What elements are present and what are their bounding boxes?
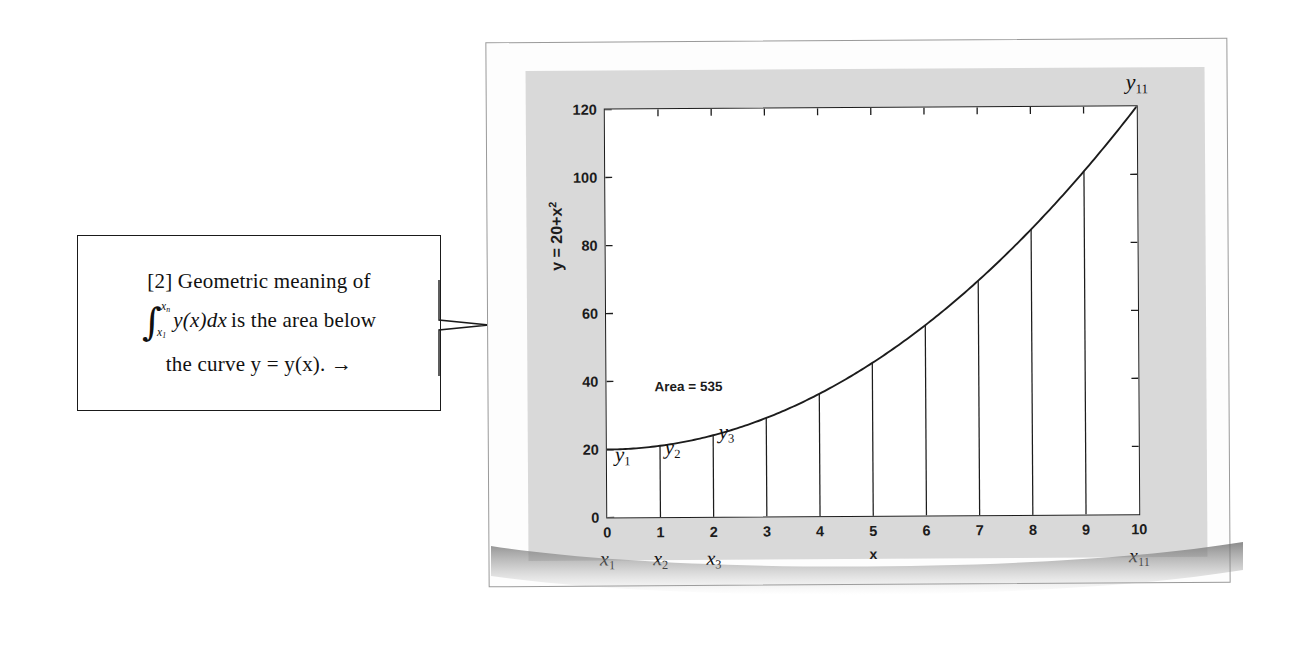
- ytick-label-60: 60: [582, 306, 598, 322]
- xtick-label-0: 0: [603, 525, 611, 541]
- x-axis-ticks-top: [658, 107, 1084, 117]
- xtick-label-8: 8: [1029, 522, 1037, 538]
- callout-line-1: [2] Geometric meaning of: [147, 266, 370, 298]
- callout-text-box: [2] Geometric meaning of ∫ xn x1 y(x)dx …: [77, 235, 441, 411]
- x2-label: x2: [653, 547, 668, 573]
- xtick-label-3: 3: [763, 524, 771, 540]
- strip-divider-4: [819, 394, 820, 516]
- xtick-label-4: 4: [816, 523, 824, 539]
- strip-divider-5: [872, 363, 873, 516]
- strip-divider-9: [1084, 171, 1086, 514]
- xtick-label-6: 6: [922, 523, 930, 539]
- strip-divider-8: [1031, 229, 1033, 515]
- xtick-label-9: 9: [1082, 522, 1090, 538]
- strip-divider-3: [766, 418, 767, 517]
- x3-label: x3: [706, 547, 721, 573]
- integrand-expression: y(x)dx: [173, 305, 227, 337]
- function-curve: [605, 106, 1139, 449]
- y-axis-title: y = 20+x2: [546, 202, 566, 271]
- figure-gray-panel: y = 20+x2 y11: [526, 67, 1208, 561]
- y11-label: y11: [1126, 69, 1149, 97]
- y3-label: y3: [719, 420, 735, 447]
- callout-line-2-tail: is the area below: [231, 305, 376, 337]
- xtick-label-1: 1: [656, 524, 664, 540]
- callout-line-3: the curve y = y(x). →: [166, 349, 352, 381]
- ytick-label-0: 0: [591, 510, 599, 526]
- y2-label: y2: [665, 435, 681, 462]
- x11-label: x11: [1129, 544, 1150, 570]
- callout-line-2: ∫ xn x1 y(x)dx is the area below: [142, 301, 376, 341]
- ytick-label-120: 120: [573, 102, 597, 118]
- strip-divider-6: [925, 325, 926, 515]
- x1-label: x1: [600, 547, 615, 573]
- figure-card: y = 20+x2 y11: [485, 38, 1230, 588]
- y-axis-ticks-right: [1130, 174, 1139, 446]
- integral-limits: xn x1: [158, 300, 167, 340]
- integral-upper-limit: xn: [161, 298, 170, 316]
- ytick-label-40: 40: [582, 374, 598, 390]
- integral-symbol: ∫ xn x1: [142, 301, 167, 341]
- xtick-label-7: 7: [976, 522, 984, 538]
- xtick-label-5: 5: [869, 523, 877, 539]
- xtick-label-2: 2: [710, 524, 718, 540]
- xtick-label-10: 10: [1131, 521, 1147, 537]
- ytick-label-20: 20: [583, 442, 599, 458]
- plot-area: 0 20 40 60 80 100 120 0 1 2 3 4 5 6 7 8 …: [604, 105, 1140, 518]
- integral-lower-limit: x1: [157, 324, 166, 342]
- y-axis-ticks: [605, 110, 614, 518]
- strip-dividers: [658, 171, 1086, 517]
- strip-divider-7: [978, 281, 979, 516]
- area-annotation: Area = 535: [654, 379, 722, 394]
- x-axis-title: x: [870, 546, 878, 562]
- y1-label: y1: [615, 442, 631, 469]
- plot-svg: [605, 106, 1139, 517]
- ytick-label-80: 80: [581, 238, 597, 254]
- ytick-label-100: 100: [573, 170, 597, 186]
